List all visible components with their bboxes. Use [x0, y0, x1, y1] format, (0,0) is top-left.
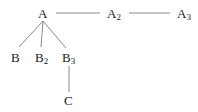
node-c: C	[64, 93, 73, 108]
node-b2: B2	[35, 50, 48, 66]
edge-a-b	[19, 21, 43, 47]
tree-diagram: A A2 A3 B B2 B3 C	[0, 0, 198, 112]
node-a2: A2	[107, 6, 121, 22]
node-a: A	[38, 6, 48, 21]
node-a3: A3	[177, 6, 191, 22]
edge-a-b2	[41, 21, 43, 47]
edge-a-b3	[43, 21, 66, 48]
node-b: B	[11, 50, 20, 65]
node-b3: B3	[62, 50, 76, 66]
